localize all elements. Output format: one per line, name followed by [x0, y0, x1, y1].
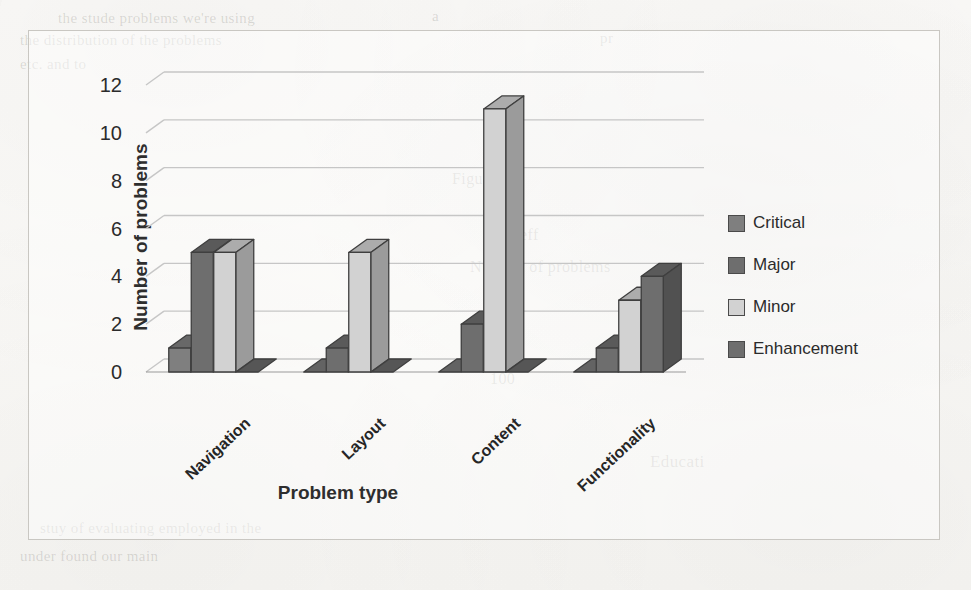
ghost-text: under found our main	[20, 548, 158, 565]
bar-side-face	[663, 263, 681, 372]
legend-swatch-icon	[728, 215, 745, 232]
bar-side-face	[236, 239, 254, 372]
ghost-text: the stude problems we're using	[58, 10, 255, 27]
bar-front-face	[484, 109, 506, 372]
legend-swatch-icon	[728, 299, 745, 316]
legend-item-label: Enhancement	[753, 339, 858, 359]
x-axis-title: Problem type	[28, 482, 648, 504]
bar-front-face	[641, 276, 663, 372]
legend-item: Minor	[728, 286, 928, 328]
legend-item: Major	[728, 244, 928, 286]
legend-item-label: Minor	[753, 297, 796, 317]
chart-plot-area: Number of problems 024681012 NavigationL…	[28, 30, 940, 540]
bar-front-face	[214, 252, 236, 372]
bar-front-face	[169, 348, 191, 372]
legend-item: Critical	[728, 202, 928, 244]
legend-item-label: Major	[753, 255, 796, 275]
bar-side-face	[506, 96, 524, 372]
chart-legend: CriticalMajorMinorEnhancement	[728, 202, 928, 370]
bar-front-face	[619, 300, 641, 372]
legend-swatch-icon	[728, 257, 745, 274]
legend-swatch-icon	[728, 341, 745, 358]
bar-front-face	[596, 348, 618, 372]
legend-item: Enhancement	[728, 328, 928, 370]
bar-front-face	[326, 348, 348, 372]
ghost-text: a	[432, 8, 439, 25]
legend-item-label: Critical	[753, 213, 805, 233]
bar-side-face	[371, 239, 389, 372]
bar-front-face	[191, 252, 213, 372]
bar-front-face	[461, 324, 483, 372]
bar-front-face	[349, 252, 371, 372]
